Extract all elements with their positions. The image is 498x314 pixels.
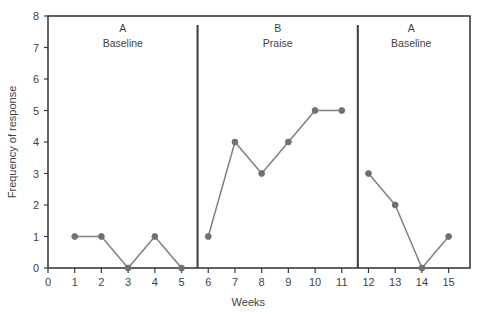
data-line-segment — [75, 237, 182, 269]
x-axis-tick-label: 11 — [336, 276, 347, 288]
y-axis-tick-label: 1 — [33, 231, 39, 243]
x-axis-tick-label: 3 — [125, 276, 131, 288]
x-axis-tick-label: 2 — [98, 276, 104, 288]
x-axis-tick-label: 0 — [45, 276, 51, 288]
data-point-marker — [339, 108, 345, 114]
x-axis-tick-label: 1 — [72, 276, 78, 288]
y-axis-tick-label: 4 — [33, 136, 39, 148]
phase-name-label: Baseline — [103, 37, 143, 49]
data-point-marker — [259, 171, 265, 177]
y-axis-tick-label: 0 — [33, 262, 39, 274]
y-axis-tick-label: 8 — [33, 10, 39, 22]
data-point-marker — [392, 202, 398, 208]
data-point-marker — [312, 108, 318, 114]
y-axis-title: Frequency of response — [6, 86, 18, 199]
phase-letter-label: A — [408, 22, 415, 34]
data-point-marker — [446, 234, 452, 240]
x-axis-tick-label: 10 — [309, 276, 321, 288]
data-point-marker — [152, 234, 158, 240]
x-axis-tick-label: 15 — [443, 276, 455, 288]
x-axis-tick-label: 14 — [416, 276, 428, 288]
phase-name-label: Praise — [263, 37, 293, 49]
data-point-marker — [179, 265, 185, 271]
ab-design-line-chart: 0123456780123456789101112131415WeeksFreq… — [0, 0, 498, 314]
y-axis-tick-label: 6 — [33, 73, 39, 85]
data-point-marker — [285, 139, 291, 145]
y-axis-tick-label: 3 — [33, 168, 39, 180]
y-axis-tick-label: 7 — [33, 42, 39, 54]
phase-name-label: Baseline — [391, 37, 431, 49]
data-point-marker — [419, 265, 425, 271]
x-axis-tick-label: 8 — [259, 276, 265, 288]
x-axis-tick-label: 4 — [152, 276, 158, 288]
chart-container: 0123456780123456789101112131415WeeksFreq… — [0, 0, 498, 314]
x-axis-tick-label: 13 — [389, 276, 401, 288]
y-axis-tick-label: 5 — [33, 105, 39, 117]
data-point-marker — [232, 139, 238, 145]
data-point-marker — [205, 234, 211, 240]
data-point-marker — [366, 171, 372, 177]
phase-letter-label: B — [274, 22, 281, 34]
data-point-marker — [125, 265, 131, 271]
x-axis-title: Weeks — [232, 296, 266, 308]
data-line-segment — [208, 111, 342, 237]
phase-letter-label: A — [119, 22, 126, 34]
data-point-marker — [99, 234, 105, 240]
data-point-marker — [72, 234, 78, 240]
x-axis-tick-label: 6 — [205, 276, 211, 288]
x-axis-tick-label: 12 — [362, 276, 374, 288]
x-axis-tick-label: 7 — [232, 276, 238, 288]
y-axis-tick-label: 2 — [33, 199, 39, 211]
x-axis-tick-label: 5 — [178, 276, 184, 288]
data-line-segment — [369, 174, 449, 269]
x-axis-tick-label: 9 — [285, 276, 291, 288]
